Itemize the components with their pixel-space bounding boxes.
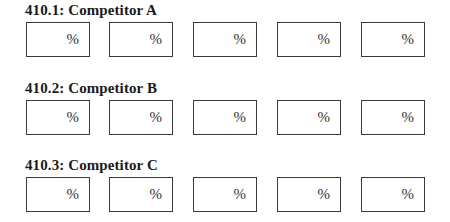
percent-unit: % (67, 186, 80, 203)
percent-unit: % (150, 31, 163, 48)
percent-field[interactable]: % (361, 22, 425, 57)
percent-field[interactable]: % (26, 100, 90, 135)
percent-unit: % (67, 31, 80, 48)
percent-field[interactable]: % (361, 177, 425, 212)
percent-field[interactable]: % (277, 100, 341, 135)
percent-unit: % (402, 31, 415, 48)
percent-field[interactable]: % (193, 177, 257, 212)
percent-unit: % (402, 109, 415, 126)
percent-unit: % (150, 109, 163, 126)
percent-unit: % (150, 186, 163, 203)
percent-field[interactable]: % (109, 177, 173, 212)
section-title: 410.2: Competitor B (25, 80, 157, 96)
percent-unit: % (402, 186, 415, 203)
percent-field[interactable]: % (26, 22, 90, 57)
percent-field[interactable]: % (193, 22, 257, 57)
section-title: 410.1: Competitor A (25, 2, 157, 18)
percent-unit: % (234, 109, 247, 126)
percent-field[interactable]: % (361, 100, 425, 135)
section-title: 410.3: Competitor C (25, 157, 158, 173)
percent-unit: % (318, 31, 331, 48)
percent-unit: % (318, 109, 331, 126)
percent-field[interactable]: % (109, 100, 173, 135)
percent-field[interactable]: % (277, 22, 341, 57)
percent-field[interactable]: % (193, 100, 257, 135)
percent-unit: % (234, 31, 247, 48)
percent-unit: % (318, 186, 331, 203)
percent-field[interactable]: % (277, 177, 341, 212)
percent-unit: % (234, 186, 247, 203)
percent-field[interactable]: % (26, 177, 90, 212)
percent-field[interactable]: % (109, 22, 173, 57)
percent-unit: % (67, 109, 80, 126)
